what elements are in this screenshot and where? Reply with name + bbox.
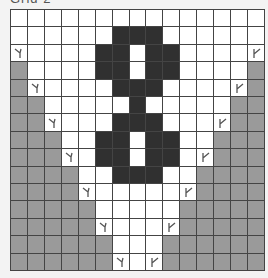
grid-cell-r1-c6[interactable] bbox=[113, 27, 129, 43]
grid-cell-r8-c8[interactable] bbox=[146, 149, 162, 165]
grid-cell-r5-c3[interactable] bbox=[62, 97, 78, 113]
grid-cell-r2-c12[interactable] bbox=[214, 45, 230, 61]
grid-cell-r10-c14[interactable] bbox=[248, 184, 264, 200]
grid-cell-r12-c7[interactable] bbox=[130, 219, 146, 235]
grid-cell-r14-c6[interactable] bbox=[113, 254, 129, 270]
grid-cell-r0-c7[interactable] bbox=[130, 10, 146, 26]
grid-cell-r4-c14[interactable] bbox=[248, 80, 264, 96]
grid-cell-r2-c0[interactable] bbox=[11, 45, 27, 61]
grid-cell-r1-c12[interactable] bbox=[214, 27, 230, 43]
grid-cell-r11-c8[interactable] bbox=[146, 201, 162, 217]
grid-cell-r2-c8[interactable] bbox=[146, 45, 162, 61]
grid-cell-r13-c4[interactable] bbox=[79, 236, 95, 252]
grid-cell-r12-c3[interactable] bbox=[62, 219, 78, 235]
grid-cell-r13-c13[interactable] bbox=[231, 236, 247, 252]
grid-cell-r10-c6[interactable] bbox=[113, 184, 129, 200]
grid-cell-r9-c14[interactable] bbox=[248, 167, 264, 183]
grid-cell-r2-c5[interactable] bbox=[96, 45, 112, 61]
grid-cell-r7-c5[interactable] bbox=[96, 132, 112, 148]
grid-cell-r8-c11[interactable] bbox=[197, 149, 213, 165]
grid-cell-r6-c10[interactable] bbox=[180, 114, 196, 130]
grid-cell-r8-c4[interactable] bbox=[79, 149, 95, 165]
grid-cell-r1-c10[interactable] bbox=[180, 27, 196, 43]
grid-cell-r4-c1[interactable] bbox=[28, 80, 44, 96]
grid-cell-r3-c2[interactable] bbox=[45, 62, 61, 78]
grid-cell-r14-c7[interactable] bbox=[130, 254, 146, 270]
grid-cell-r7-c0[interactable] bbox=[11, 132, 27, 148]
grid-cell-r5-c1[interactable] bbox=[28, 97, 44, 113]
grid-cell-r3-c5[interactable] bbox=[96, 62, 112, 78]
grid-cell-r0-c10[interactable] bbox=[180, 10, 196, 26]
grid-cell-r5-c4[interactable] bbox=[79, 97, 95, 113]
grid-cell-r0-c8[interactable] bbox=[146, 10, 162, 26]
grid-cell-r8-c12[interactable] bbox=[214, 149, 230, 165]
grid-cell-r5-c12[interactable] bbox=[214, 97, 230, 113]
grid-cell-r3-c6[interactable] bbox=[113, 62, 129, 78]
grid-cell-r1-c4[interactable] bbox=[79, 27, 95, 43]
grid-cell-r14-c3[interactable] bbox=[62, 254, 78, 270]
grid-cell-r9-c5[interactable] bbox=[96, 167, 112, 183]
grid-cell-r2-c7[interactable] bbox=[130, 45, 146, 61]
grid-cell-r13-c7[interactable] bbox=[130, 236, 146, 252]
grid-cell-r11-c2[interactable] bbox=[45, 201, 61, 217]
grid-cell-r8-c10[interactable] bbox=[180, 149, 196, 165]
grid-cell-r10-c1[interactable] bbox=[28, 184, 44, 200]
grid-cell-r11-c13[interactable] bbox=[231, 201, 247, 217]
grid-cell-r1-c2[interactable] bbox=[45, 27, 61, 43]
grid-cell-r9-c3[interactable] bbox=[62, 167, 78, 183]
grid-cell-r3-c1[interactable] bbox=[28, 62, 44, 78]
grid-cell-r10-c10[interactable] bbox=[180, 184, 196, 200]
grid-cell-r11-c10[interactable] bbox=[180, 201, 196, 217]
grid-cell-r9-c11[interactable] bbox=[197, 167, 213, 183]
grid-cell-r3-c14[interactable] bbox=[248, 62, 264, 78]
grid-cell-r1-c7[interactable] bbox=[130, 27, 146, 43]
grid-cell-r10-c13[interactable] bbox=[231, 184, 247, 200]
grid-cell-r0-c13[interactable] bbox=[231, 10, 247, 26]
grid-cell-r14-c13[interactable] bbox=[231, 254, 247, 270]
grid-cell-r1-c5[interactable] bbox=[96, 27, 112, 43]
grid-cell-r1-c3[interactable] bbox=[62, 27, 78, 43]
grid-cell-r10-c3[interactable] bbox=[62, 184, 78, 200]
grid-cell-r5-c13[interactable] bbox=[231, 97, 247, 113]
grid-cell-r6-c8[interactable] bbox=[146, 114, 162, 130]
grid-cell-r14-c10[interactable] bbox=[180, 254, 196, 270]
grid-cell-r7-c6[interactable] bbox=[113, 132, 129, 148]
grid-cell-r6-c5[interactable] bbox=[96, 114, 112, 130]
grid-cell-r14-c2[interactable] bbox=[45, 254, 61, 270]
grid-cell-r6-c11[interactable] bbox=[197, 114, 213, 130]
grid-cell-r4-c13[interactable] bbox=[231, 80, 247, 96]
grid-cell-r14-c5[interactable] bbox=[96, 254, 112, 270]
grid-cell-r0-c2[interactable] bbox=[45, 10, 61, 26]
grid-cell-r9-c4[interactable] bbox=[79, 167, 95, 183]
grid-cell-r6-c1[interactable] bbox=[28, 114, 44, 130]
grid-cell-r2-c10[interactable] bbox=[180, 45, 196, 61]
grid-cell-r7-c2[interactable] bbox=[45, 132, 61, 148]
grid-cell-r6-c4[interactable] bbox=[79, 114, 95, 130]
grid-cell-r1-c8[interactable] bbox=[146, 27, 162, 43]
grid-cell-r4-c12[interactable] bbox=[214, 80, 230, 96]
grid-cell-r8-c3[interactable] bbox=[62, 149, 78, 165]
grid-cell-r10-c2[interactable] bbox=[45, 184, 61, 200]
grid-cell-r7-c3[interactable] bbox=[62, 132, 78, 148]
grid-cell-r8-c9[interactable] bbox=[163, 149, 179, 165]
grid-cell-r9-c13[interactable] bbox=[231, 167, 247, 183]
grid-cell-r2-c9[interactable] bbox=[163, 45, 179, 61]
grid-cell-r0-c14[interactable] bbox=[248, 10, 264, 26]
grid-cell-r3-c13[interactable] bbox=[231, 62, 247, 78]
grid-cell-r14-c14[interactable] bbox=[248, 254, 264, 270]
grid-cell-r14-c11[interactable] bbox=[197, 254, 213, 270]
grid-cell-r4-c0[interactable] bbox=[11, 80, 27, 96]
grid-cell-r8-c0[interactable] bbox=[11, 149, 27, 165]
grid-cell-r6-c0[interactable] bbox=[11, 114, 27, 130]
grid-cell-r3-c0[interactable] bbox=[11, 62, 27, 78]
grid-cell-r9-c9[interactable] bbox=[163, 167, 179, 183]
grid-cell-r2-c3[interactable] bbox=[62, 45, 78, 61]
grid-cell-r9-c10[interactable] bbox=[180, 167, 196, 183]
grid-cell-r13-c3[interactable] bbox=[62, 236, 78, 252]
grid-cell-r8-c13[interactable] bbox=[231, 149, 247, 165]
grid-cell-r4-c2[interactable] bbox=[45, 80, 61, 96]
grid-cell-r6-c3[interactable] bbox=[62, 114, 78, 130]
grid-cell-r6-c9[interactable] bbox=[163, 114, 179, 130]
grid-cell-r14-c9[interactable] bbox=[163, 254, 179, 270]
grid-cell-r2-c1[interactable] bbox=[28, 45, 44, 61]
